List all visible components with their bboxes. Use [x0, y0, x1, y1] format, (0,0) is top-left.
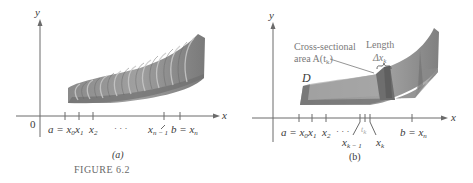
- delta-x-label: Δxk: [373, 53, 386, 65]
- y-axis-label-b: y: [269, 10, 274, 21]
- panel-b-caption: (b): [349, 152, 361, 162]
- figure-title: FIGURE 6.2: [74, 164, 130, 175]
- tick-label-a-x2: x2: [89, 124, 97, 137]
- tick-label-a-xn: b = xn: [171, 124, 198, 137]
- tick-label-a-x1: x1: [75, 124, 83, 137]
- origin-label: 0: [30, 119, 36, 130]
- solid-label-D: D: [302, 72, 311, 84]
- tick-label-b-xk: xk: [376, 137, 384, 150]
- figure-panel-a: y x 0 a = x0 x1 x2 · · · xn − 1 b = xn (…: [0, 0, 240, 183]
- tick-label-b-x1: x1: [308, 127, 316, 140]
- panel-a-caption: (a): [112, 150, 124, 160]
- tick-label-a-xn-1: xn − 1: [148, 124, 168, 137]
- x-axis-label-b: x: [451, 112, 456, 123]
- y-axis-label-a: y: [35, 7, 40, 18]
- tick-label-b-tk: tk: [361, 126, 366, 136]
- tick-label-b-x0: a = x0: [281, 127, 308, 140]
- x-axis-label-a: x: [222, 110, 227, 121]
- cross-section-leader: [330, 59, 374, 73]
- cross-section-label-line1: Cross-sectional: [294, 42, 356, 52]
- y-axis-arrow-icon: [271, 22, 276, 29]
- tick-label-b-x2: x2: [322, 127, 330, 140]
- tick-label-b-dots: · · ·: [336, 127, 350, 136]
- length-label: Length: [366, 40, 394, 50]
- x-axis-arrow-icon: [441, 116, 448, 121]
- tick-label-b-xn: b = xn: [400, 127, 427, 140]
- tick-label-b-xk-1: xk − 1: [342, 137, 362, 150]
- tick-label-a-x0: a = x0: [48, 124, 75, 137]
- y-axis-arrow-icon: [38, 19, 43, 26]
- tick-label-a-dots: · · ·: [114, 124, 128, 133]
- x-axis-arrow-icon: [213, 114, 220, 119]
- cross-section-label-line2: area A(tk): [294, 54, 333, 66]
- figure-panel-b: y x D Cross-sectional area A(tk) Length …: [240, 0, 473, 183]
